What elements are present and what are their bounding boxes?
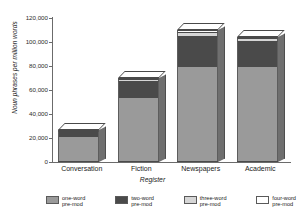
bar-academic: [237, 18, 278, 162]
bar-segment-one-word: [118, 98, 159, 162]
legend-swatch-four-word: [256, 196, 269, 204]
bar-base-line: [237, 161, 278, 162]
legend-item-four-word[interactable]: four-wordpre-mod: [256, 195, 296, 207]
x-axis-line: [52, 162, 291, 163]
x-axis-title: Register: [0, 176, 305, 183]
bar-side-face: [99, 126, 106, 162]
legend-label: one-wordpre-mod: [62, 195, 85, 207]
y-tick-mark: [49, 18, 52, 19]
x-tick-label: Academic: [220, 165, 300, 172]
bar-side-face: [278, 34, 285, 162]
y-tick-label: 100,000: [2, 39, 48, 45]
bar-top-face: [237, 30, 285, 37]
y-tick-label: 20,000: [2, 135, 48, 141]
stacked-bar-chart: 020,00040,00060,00080,000100,000120,000 …: [0, 0, 305, 219]
bar-newspapers: [177, 18, 218, 162]
legend-swatch-one-word: [46, 196, 59, 204]
plot-area: [52, 18, 290, 162]
bar-base-line: [118, 161, 159, 162]
y-tick-mark: [49, 42, 52, 43]
bar-segment-three-word: [237, 38, 278, 40]
y-axis-tick-labels: 020,00040,00060,00080,000100,000120,000: [0, 0, 48, 219]
y-axis-title: Noun phrases per million words: [11, 8, 18, 128]
y-tick-mark: [49, 66, 52, 67]
bar-segment-four-word: [237, 37, 278, 38]
bar-segment-two-word: [118, 81, 159, 98]
bar-segment-three-word: [118, 79, 159, 81]
bar-top-face: [58, 123, 106, 130]
bar-base-line: [58, 161, 99, 162]
bar-conversation: [58, 18, 99, 162]
y-tick-label: 80,000: [2, 63, 48, 69]
y-tick-mark: [49, 162, 52, 163]
bar-segment-one-word: [237, 67, 278, 162]
bar-segment-two-word: [58, 131, 99, 137]
bar-side-face: [159, 75, 166, 162]
bar-base-line: [177, 161, 218, 162]
bar-segment-four-word: [177, 30, 218, 32]
legend-item-two-word[interactable]: two-wordpre-mod: [115, 195, 154, 207]
bar-top-face: [118, 71, 166, 78]
bar-fiction: [118, 18, 159, 162]
bar-side-face: [218, 27, 225, 162]
y-tick-label: 40,000: [2, 111, 48, 117]
bar-top-face: [177, 23, 225, 30]
y-tick-label: 0: [2, 159, 48, 165]
legend-item-one-word[interactable]: one-wordpre-mod: [46, 195, 85, 207]
bar-segment-one-word: [58, 137, 99, 162]
bar-segment-three-word: [177, 32, 218, 36]
y-tick-mark: [49, 114, 52, 115]
bar-segment-one-word: [177, 67, 218, 162]
y-tick-label: 120,000: [2, 15, 48, 21]
y-tick-mark: [49, 138, 52, 139]
y-tick-label: 60,000: [2, 87, 48, 93]
legend-swatch-three-word: [184, 196, 197, 204]
legend-label: three-wordpre-mod: [200, 195, 227, 207]
bar-segment-two-word: [237, 41, 278, 67]
bar-segment-three-word: [58, 130, 99, 131]
chart-legend: one-wordpre-modtwo-wordpre-modthree-word…: [46, 195, 296, 207]
y-tick-mark: [49, 90, 52, 91]
legend-swatch-two-word: [115, 196, 128, 204]
legend-item-three-word[interactable]: three-wordpre-mod: [184, 195, 227, 207]
bar-segment-two-word: [177, 36, 218, 67]
legend-label: two-wordpre-mod: [131, 195, 154, 207]
legend-label: four-wordpre-mod: [272, 195, 296, 207]
